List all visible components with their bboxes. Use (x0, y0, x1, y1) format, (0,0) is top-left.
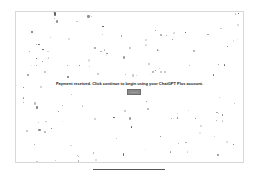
confetti-piece (88, 59, 90, 62)
confetti-piece (157, 50, 158, 51)
confetti-piece (67, 76, 69, 78)
confetti-piece (70, 145, 71, 146)
confetti-piece (100, 51, 102, 52)
confetti-piece (219, 97, 220, 98)
confetti-piece (178, 143, 179, 144)
confetti-piece (207, 34, 208, 35)
confetti-piece (217, 154, 218, 156)
confetti-piece (121, 35, 122, 36)
confetti-piece (113, 117, 115, 118)
confetti-piece (218, 64, 219, 65)
confetti-piece (213, 74, 214, 76)
confetti-piece (173, 32, 175, 34)
confetti-piece (42, 49, 43, 50)
confetti-piece (51, 128, 52, 129)
confetti-piece (62, 105, 63, 106)
confetti-piece (185, 32, 186, 33)
confetti-piece (31, 31, 33, 33)
confetti-piece (44, 71, 46, 74)
confetti-piece (233, 144, 234, 145)
confetti-piece (238, 13, 239, 14)
confetti-piece (38, 44, 40, 45)
confetti-piece (42, 61, 43, 62)
confetti-piece (93, 152, 95, 154)
confetti-piece (29, 51, 30, 53)
confetti-piece (131, 126, 133, 128)
confetti-piece (222, 114, 223, 116)
confetti-piece (226, 141, 228, 143)
confetti-piece (97, 73, 99, 75)
confetti-piece (38, 129, 40, 131)
confetti-piece (48, 57, 50, 59)
confetti-piece (78, 156, 79, 157)
confetti-piece (227, 46, 228, 47)
confetti-piece (23, 87, 24, 89)
confetti-piece (216, 120, 217, 121)
confetti-piece (106, 53, 108, 54)
confetti-piece (123, 153, 125, 156)
confetti-piece (200, 125, 202, 128)
confetti-piece (67, 65, 68, 66)
bottom-divider (93, 169, 165, 170)
confetti-piece (50, 37, 51, 38)
confetti-piece (234, 103, 235, 104)
confetti-piece (152, 71, 154, 73)
confetti-piece (145, 39, 147, 41)
confetti-piece (233, 40, 234, 41)
confetti-piece (214, 136, 215, 138)
confetti-piece (36, 44, 37, 45)
confetti-piece (155, 70, 156, 71)
confetti-piece (218, 113, 219, 115)
confetti-piece (187, 151, 188, 153)
confetti-piece (104, 49, 105, 51)
confetti-piece (54, 12, 56, 15)
confetti-piece (145, 44, 147, 46)
confetti-piece (185, 142, 187, 143)
confetti-piece (172, 39, 173, 40)
confetti-piece (94, 47, 96, 49)
confetti-piece (195, 118, 196, 119)
confetti-piece (177, 117, 179, 119)
confetti-piece (146, 101, 147, 102)
confetti-piece (170, 151, 171, 152)
confetti-piece (47, 51, 49, 52)
confetti-piece (82, 105, 83, 107)
confetti-piece (160, 34, 162, 36)
confetti-piece (94, 118, 95, 120)
confetti-piece (123, 56, 125, 59)
confetti-piece (79, 65, 80, 66)
confetti-piece (31, 65, 32, 66)
celebration-window: Payment received. Click continue to begi… (15, 11, 244, 163)
confetti-piece (124, 110, 125, 111)
confetti-piece (44, 131, 46, 133)
confetti-piece (34, 102, 36, 105)
confetti-piece (235, 13, 236, 14)
confetti-piece (68, 38, 70, 40)
confetti-piece (58, 111, 59, 112)
confetti-piece (102, 26, 103, 27)
confetti-piece (55, 160, 56, 161)
confetti-piece (159, 68, 160, 70)
confetti-piece (27, 74, 29, 76)
confetti-piece (102, 34, 103, 35)
confetti-piece (129, 117, 131, 120)
confetti-piece (155, 30, 156, 31)
confetti-piece (76, 21, 78, 23)
confetti-piece (199, 132, 200, 134)
confetti-piece (91, 16, 92, 17)
confetti-piece (62, 121, 63, 122)
confetti-piece (147, 108, 148, 110)
confetti-piece (116, 138, 117, 139)
confetti-piece (40, 86, 41, 87)
confetti-piece (166, 35, 168, 36)
confetti-piece (222, 120, 223, 122)
confetti-piece (23, 97, 25, 99)
confetti-piece (193, 50, 195, 52)
confetti-piece (95, 159, 97, 161)
confetti-piece (78, 160, 79, 162)
footer-text: · · · · · · · · · · · · · · · · (80, 173, 180, 175)
confetti-piece (36, 106, 38, 108)
confetti-piece (216, 112, 218, 113)
continue-button[interactable]: Continue (127, 89, 141, 95)
confetti-piece (45, 121, 47, 122)
